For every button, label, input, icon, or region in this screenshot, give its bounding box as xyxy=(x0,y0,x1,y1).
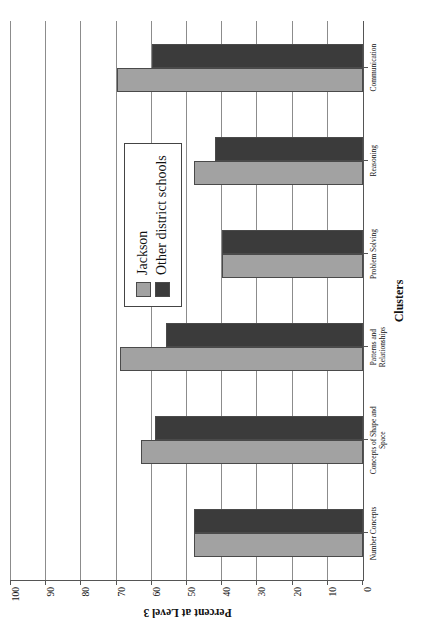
value-axis-tick xyxy=(292,580,293,585)
value-axis-tick xyxy=(45,580,46,585)
legend-label-jackson: Jackson xyxy=(135,231,151,275)
legend-item-jackson: Jackson xyxy=(135,155,151,297)
category-axis-tick xyxy=(363,532,368,533)
value-axis-tick xyxy=(186,580,187,585)
bar-other-district-schools xyxy=(166,323,363,347)
value-axis-tick xyxy=(116,580,117,585)
bar-jackson xyxy=(194,533,363,557)
category-axis-label: Number Concepts xyxy=(369,487,378,580)
chart-legend: Jackson Other district schools xyxy=(124,143,182,307)
bar-jackson xyxy=(120,347,363,371)
bar-jackson xyxy=(141,440,363,464)
category-axis-label: Problem Solving xyxy=(369,207,378,300)
plot-area: 0102030405060708090100Number ConceptsCon… xyxy=(11,21,364,581)
bar-group: Number Concepts xyxy=(11,487,363,580)
category-axis-title: Clusters xyxy=(392,21,407,581)
value-axis-tick xyxy=(80,580,81,585)
category-axis-tick xyxy=(363,160,368,161)
category-axis-label: Concepts of Shape and Space xyxy=(369,394,387,487)
bar-other-district-schools xyxy=(215,137,363,161)
bar-other-district-schools xyxy=(155,416,363,440)
category-axis-label: Patterns and Relationships xyxy=(369,301,387,394)
rotated-figure-wrapper: Percent at Level 3 010203040506070809010… xyxy=(0,0,443,633)
bar-group: Reasoning xyxy=(11,114,363,207)
value-axis-tick xyxy=(151,580,152,585)
bar-group: Patterns and Relationships xyxy=(11,301,363,394)
bar-other-district-schools xyxy=(194,509,363,533)
legend-swatch-other-district-schools xyxy=(155,282,170,297)
value-axis-tick xyxy=(10,580,11,585)
value-axis-tick xyxy=(221,580,222,585)
legend-label-other-district-schools: Other district schools xyxy=(154,155,170,275)
value-axis-tick xyxy=(327,580,328,585)
category-axis-label: Communication xyxy=(369,21,378,114)
bar-other-district-schools xyxy=(222,230,363,254)
bar-jackson xyxy=(222,254,363,278)
category-axis-tick xyxy=(363,346,368,347)
bar-jackson xyxy=(194,161,363,185)
value-axis-tick xyxy=(256,580,257,585)
legend-swatch-jackson xyxy=(136,282,151,297)
value-axis-tick xyxy=(362,580,363,585)
bar-chart-figure: Percent at Level 3 010203040506070809010… xyxy=(0,0,443,633)
category-axis-tick xyxy=(363,439,368,440)
bar-group: Problem Solving xyxy=(11,207,363,300)
bar-group: Communication xyxy=(11,21,363,114)
bar-other-district-schools xyxy=(152,44,363,68)
legend-item-other-district-schools: Other district schools xyxy=(154,155,170,297)
category-axis-tick xyxy=(363,253,368,254)
bar-group: Concepts of Shape and Space xyxy=(11,394,363,487)
value-axis-title: Percent at Level 3 xyxy=(11,607,364,619)
bar-jackson xyxy=(117,68,363,92)
category-axis-label: Reasoning xyxy=(369,114,378,207)
category-axis-tick xyxy=(363,67,368,68)
